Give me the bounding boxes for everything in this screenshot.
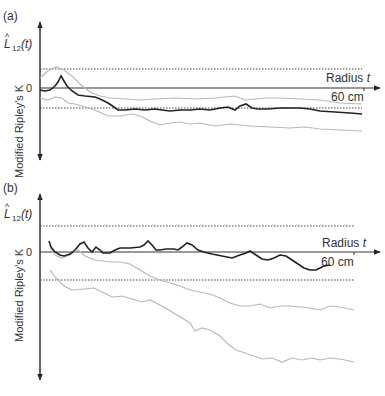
panel-b: (b) L ^ 12 (t) Modified Ripley's K 0 Rad… (3, 181, 380, 380)
zero-tick-b: 0 (26, 246, 32, 258)
panel-a: (a) L ^ 12 (t) Modified Ripley's K 0 Rad… (3, 9, 380, 178)
lower-envelope-a (40, 97, 362, 131)
svg-text:(t): (t) (21, 207, 32, 221)
figure: (a) L ^ 12 (t) Modified Ripley's K 0 Rad… (0, 0, 385, 396)
panel-a-label: (a) (3, 9, 18, 23)
x-axis-label-a: Radius t (326, 71, 371, 85)
y-axis-label-a: Modified Ripley's K (13, 84, 25, 178)
zero-tick-a: 0 (26, 82, 32, 94)
svg-text:(t): (t) (21, 37, 32, 51)
y-axis-label-b: Modified Ripley's K (13, 248, 25, 342)
observed-curve-b (49, 241, 330, 270)
x-axis-label-b: Radius t (322, 236, 367, 250)
lower-envelope-b (50, 270, 354, 362)
x-tick-label-b: 60 cm (321, 255, 354, 269)
upper-envelope-a (40, 67, 362, 104)
upper-envelope-b (50, 248, 354, 310)
y-symbol-b: L ^ 12 (t) (4, 202, 32, 223)
y-symbol-a: L ^ 12 (t) (4, 32, 32, 53)
panel-b-label: (b) (3, 181, 18, 195)
